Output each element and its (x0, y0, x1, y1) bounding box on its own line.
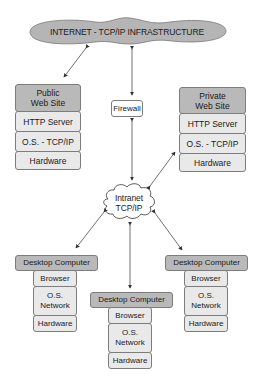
public-web-site-header: Public Web Site (15, 84, 81, 112)
desktop-right-header: Desktop Computer (165, 255, 248, 271)
desktop-middle-os-network: O.S. Network (108, 323, 152, 353)
public-os-layer: O.S. - TCP/IP (15, 131, 81, 152)
desktop-right-hardware: Hardware (184, 315, 228, 332)
desktop-left-hardware-label: Hardware (38, 319, 73, 329)
public-title-line1: Public (36, 88, 59, 98)
internet-cloud-label: INTERNET - TCP/IP INFRASTRUCTURE (50, 27, 204, 37)
public-http-server-label: HTTP Server (23, 117, 72, 127)
desktop-middle-os-line1: O.S. (122, 328, 138, 338)
private-http-server-layer: HTTP Server (179, 113, 246, 134)
desktop-left-browser-label: Browser (40, 274, 69, 284)
private-os-label: O.S. - TCP/IP (187, 139, 239, 149)
desktop-left-os-line2: Network (40, 301, 69, 311)
desktop-middle-header: Desktop Computer (90, 292, 173, 308)
internet-cloud: INTERNET - TCP/IP INFRASTRUCTURE (28, 27, 226, 37)
public-title-line2: Web Site (31, 98, 65, 108)
desktop-middle-os-line2: Network (115, 338, 144, 348)
firewall-label: Firewall (113, 104, 141, 114)
desktop-middle-title: Desktop Computer (98, 295, 165, 305)
intranet-label-line2: TCP/IP (106, 203, 152, 213)
private-hardware-layer: Hardware (179, 153, 246, 172)
private-web-site-header: Private Web Site (179, 87, 246, 114)
public-http-server-layer: HTTP Server (15, 111, 81, 132)
desktop-right-hardware-label: Hardware (189, 319, 224, 329)
private-os-layer: O.S. - TCP/IP (179, 133, 246, 154)
intranet-label-line1: Intranet (106, 193, 152, 203)
desktop-right-browser: Browser (184, 270, 228, 287)
desktop-left-os-network: O.S. Network (33, 286, 77, 316)
desktop-middle-browser: Browser (108, 307, 152, 324)
desktop-right-title: Desktop Computer (173, 258, 240, 268)
desktop-left-os-line1: O.S. (47, 291, 63, 301)
desktop-left-browser: Browser (33, 270, 77, 287)
desktop-middle-hardware: Hardware (108, 352, 152, 369)
public-hardware-label: Hardware (30, 156, 67, 166)
intranet-cloud: Intranet TCP/IP (106, 193, 152, 213)
desktop-middle-browser-label: Browser (115, 311, 144, 321)
desktop-right-os-network: O.S. Network (184, 286, 228, 316)
firewall-node: Firewall (111, 100, 143, 117)
private-title-line2: Web Site (195, 101, 229, 111)
desktop-middle-hardware-label: Hardware (113, 356, 148, 366)
desktop-right-os-line1: O.S. (198, 291, 214, 301)
public-os-label: O.S. - TCP/IP (22, 137, 74, 147)
desktop-right-os-line2: Network (191, 301, 220, 311)
private-hardware-label: Hardware (194, 158, 231, 168)
desktop-right-browser-label: Browser (191, 274, 220, 284)
private-title-line1: Private (199, 91, 225, 101)
desktop-left-title: Desktop Computer (23, 258, 90, 268)
desktop-left-hardware: Hardware (33, 315, 77, 332)
public-hardware-layer: Hardware (15, 151, 81, 170)
desktop-left-header: Desktop Computer (15, 255, 98, 271)
private-http-server-label: HTTP Server (188, 119, 237, 129)
